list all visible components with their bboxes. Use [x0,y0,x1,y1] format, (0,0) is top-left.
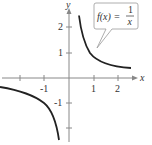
y-axis-label: y [65,0,71,10]
y-tick-label: 2 [58,21,63,32]
y-tick-label: 1 [58,47,63,58]
chart: -1 1 2 2 1 -1 x y f(x) = 1 x [0,0,152,145]
x-tick-label: 1 [91,83,96,94]
curve-negative-branch [0,87,59,140]
callout-numerator: 1 [128,4,133,15]
x-axis-arrow-icon [132,76,138,81]
x-tick-label: -1 [40,83,48,94]
function-callout: f(x) = 1 x [94,3,138,48]
x-tick-label: 2 [115,83,120,94]
x-axis-label: x [139,72,145,83]
callout-denominator: x [127,16,133,27]
callout-lhs: f(x) = [97,11,120,23]
y-tick-label: -1 [54,97,62,108]
